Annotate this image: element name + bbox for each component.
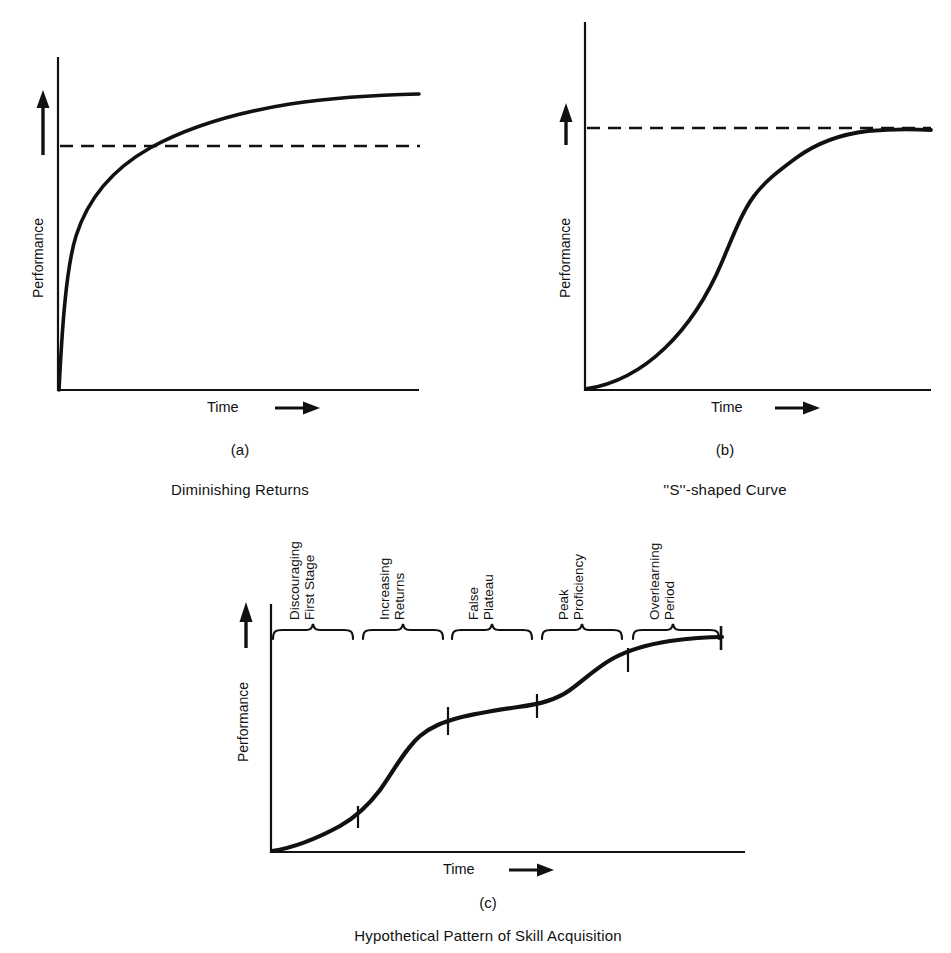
- stage-label-line1: Increasing: [377, 558, 392, 620]
- panel-c-stage-label-peak-proficiency: Peak Proficiency: [556, 554, 586, 620]
- panel-b-letter: (b): [685, 441, 765, 458]
- panel-b-curve: [586, 129, 931, 389]
- panel-b-up-arrow-icon: [560, 103, 573, 145]
- stage-label-line2: Plateau: [481, 574, 496, 620]
- panel-b-caption: ''S''-shaped Curve: [610, 481, 840, 498]
- panel-a-up-arrow-icon: [37, 90, 50, 155]
- panel-c-caption: Hypothetical Pattern of Skill Acquisitio…: [288, 927, 688, 944]
- panel-c-stage-brace: [363, 624, 443, 639]
- stage-label-line1: Overlearning: [647, 543, 662, 620]
- panel-c-graph: [240, 602, 746, 877]
- panel-c-curve: [272, 637, 722, 851]
- panel-b-graph: [560, 22, 932, 415]
- panel-a-graph: [37, 57, 421, 415]
- panel-a-curve: [59, 94, 419, 390]
- panel-c-up-arrow-icon: [240, 602, 253, 648]
- stage-label-line1: False: [466, 574, 481, 620]
- stage-label-line2: First Stage: [302, 541, 317, 620]
- panel-b-right-arrow-icon: [775, 402, 820, 415]
- panel-c-stage-label-discouraging-first-stage: Discouraging First Stage: [287, 541, 317, 620]
- panel-a-right-arrow-icon: [275, 402, 320, 415]
- figure-vector-layer: [0, 0, 951, 953]
- panel-c-x-axis-label: Time: [443, 861, 475, 877]
- panel-b-x-axis-label: Time: [711, 399, 743, 415]
- panel-c-stage-brace: [452, 624, 532, 639]
- panel-c-right-arrow-icon: [509, 864, 554, 877]
- panel-c-letter: (c): [448, 894, 528, 911]
- stage-label-line2: Proficiency: [571, 554, 586, 620]
- figure-root: Performance Time (a) Diminishing Returns…: [0, 0, 951, 953]
- stage-label-line1: Discouraging: [287, 541, 302, 620]
- stage-label-line2: Period: [662, 543, 677, 620]
- panel-c-stage-brace: [542, 624, 622, 639]
- panel-c-stage-label-false-plateau: False Plateau: [466, 574, 496, 620]
- panel-a-caption: Diminishing Returns: [120, 481, 360, 498]
- panel-c-stage-label-overlearning-period: Overlearning Period: [647, 543, 677, 620]
- panel-b-y-axis-label: Performance: [557, 218, 573, 298]
- stage-label-line2: Returns: [392, 558, 407, 620]
- panel-c-stage-brace: [273, 624, 353, 639]
- panel-c-stage-label-increasing-returns: Increasing Returns: [377, 558, 407, 620]
- panel-a-x-axis-label: Time: [207, 399, 239, 415]
- panel-c-y-axis-label: Performance: [235, 682, 251, 762]
- panel-a-letter: (a): [200, 441, 280, 458]
- stage-label-line1: Peak: [556, 554, 571, 620]
- panel-a-y-axis-label: Performance: [30, 218, 46, 298]
